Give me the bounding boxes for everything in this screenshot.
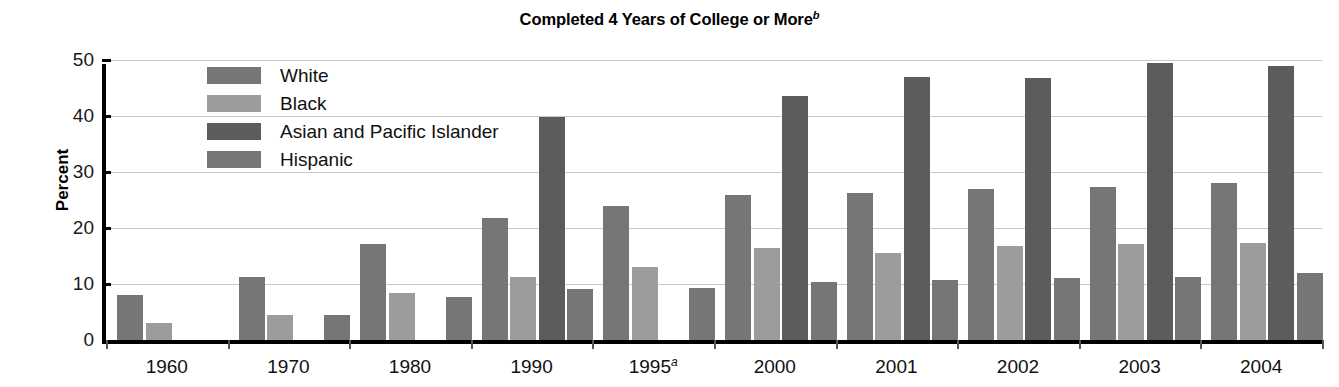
x-tick-label: 2000	[714, 356, 836, 377]
bar	[847, 193, 873, 340]
x-tick-label: 2003	[1079, 356, 1201, 377]
x-tick-label: 1990	[471, 356, 593, 377]
legend-label: Asian and Pacific Islander	[280, 122, 502, 141]
x-tick-mark	[1079, 340, 1081, 349]
bar	[1175, 277, 1201, 340]
x-tick-mark	[106, 340, 108, 349]
legend-label: Hispanic	[280, 150, 356, 169]
x-tick-label: 1980	[349, 356, 471, 377]
bar	[482, 218, 508, 340]
legend-item: White	[207, 62, 537, 89]
bar	[811, 282, 837, 340]
bar	[875, 253, 901, 340]
x-tick-footnote-marker: a	[671, 355, 678, 369]
x-tick-mark	[836, 340, 838, 349]
bar	[932, 280, 958, 340]
bar	[1054, 278, 1080, 340]
bar	[267, 315, 293, 340]
legend-label: Black	[280, 94, 329, 113]
legend-item: Asian and Pacific Islander	[207, 118, 537, 145]
bar-chart: Completed 4 Years of College or Moreb 01…	[0, 0, 1339, 387]
legend-label: White	[280, 66, 332, 85]
bar	[1090, 187, 1116, 340]
x-tick-label: 2001	[836, 356, 958, 377]
x-tick-mark	[1200, 340, 1202, 349]
bar	[360, 244, 386, 340]
bar	[632, 267, 658, 340]
x-tick-label: 1995a	[592, 356, 714, 377]
x-tick-label-text: 1990	[510, 356, 552, 377]
chart-legend: WhiteBlackAsian and Pacific IslanderHisp…	[207, 62, 537, 174]
x-tick-mark	[349, 340, 351, 349]
chart-title-footnote-marker: b	[813, 9, 820, 21]
legend-swatch	[207, 151, 261, 168]
x-tick-label-text: 2003	[1118, 356, 1160, 377]
bar	[146, 323, 172, 340]
x-tick-label: 2004	[1200, 356, 1322, 377]
bar-group	[1200, 60, 1322, 340]
x-tick-label-text: 2001	[875, 356, 917, 377]
x-tick-label: 2002	[957, 356, 1079, 377]
bar	[1240, 243, 1266, 340]
bar-group	[592, 60, 714, 340]
y-tick-label: 10	[50, 274, 94, 293]
bar	[324, 315, 350, 340]
y-tick-label: 50	[50, 50, 94, 69]
x-tick-mark	[228, 340, 230, 349]
bar	[117, 295, 143, 340]
x-tick-mark	[592, 340, 594, 349]
chart-title: Completed 4 Years of College or Moreb	[0, 10, 1339, 29]
bar	[510, 277, 536, 340]
bar	[904, 77, 930, 340]
x-tick-label-text: 1960	[146, 356, 188, 377]
x-tick-label: 1960	[106, 356, 228, 377]
y-tick-label: 0	[50, 330, 94, 349]
bar	[725, 195, 751, 340]
bar-group	[714, 60, 836, 340]
x-tick-label-text: 1980	[389, 356, 431, 377]
bar	[754, 248, 780, 340]
bar	[389, 293, 415, 340]
bar	[1268, 66, 1294, 340]
bar	[1147, 63, 1173, 340]
legend-swatch	[207, 67, 261, 84]
bar	[968, 189, 994, 340]
x-tick-label-text: 2004	[1240, 356, 1282, 377]
bar	[689, 288, 715, 340]
x-axis-line	[102, 340, 1322, 344]
bar	[239, 277, 265, 340]
x-tick-mark	[714, 340, 716, 349]
y-axis-title: Percent	[53, 115, 73, 245]
bar	[782, 96, 808, 340]
bar	[567, 289, 593, 340]
x-tick-mark	[1322, 340, 1324, 349]
bar	[1025, 78, 1051, 340]
legend-swatch	[207, 123, 261, 140]
legend-swatch	[207, 95, 261, 112]
bar	[1297, 273, 1323, 340]
bar	[603, 206, 629, 340]
bar	[997, 246, 1023, 340]
bar	[446, 297, 472, 340]
x-tick-mark	[957, 340, 959, 349]
bar-group	[957, 60, 1079, 340]
x-tick-label-text: 1995	[629, 356, 671, 377]
x-tick-label: 1970	[228, 356, 350, 377]
x-tick-label-text: 2002	[997, 356, 1039, 377]
legend-item: Black	[207, 90, 537, 117]
bar-group	[836, 60, 958, 340]
bar-group	[1079, 60, 1201, 340]
x-tick-label-text: 2000	[754, 356, 796, 377]
bar	[1118, 244, 1144, 340]
bar	[1211, 183, 1237, 340]
bar	[539, 117, 565, 340]
chart-title-text: Completed 4 Years of College or More	[520, 10, 813, 28]
x-tick-label-text: 1970	[267, 356, 309, 377]
x-tick-mark	[471, 340, 473, 349]
legend-item: Hispanic	[207, 146, 537, 173]
